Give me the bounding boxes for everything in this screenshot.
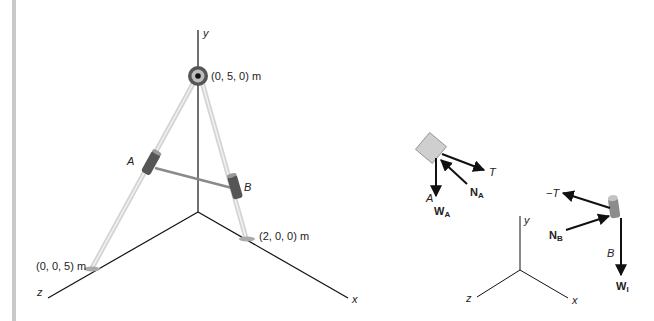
y-axis-label: y bbox=[202, 27, 210, 39]
small-y-label: y bbox=[523, 214, 531, 226]
fbd-a-body-label: A bbox=[425, 192, 433, 204]
normal-b-label: NB bbox=[549, 229, 563, 243]
collar-b-label: B bbox=[244, 181, 251, 193]
z-axis-line bbox=[48, 212, 198, 298]
small-x-axis bbox=[520, 270, 568, 298]
small-axes: y z x bbox=[465, 214, 578, 306]
neg-tension-arrow bbox=[563, 193, 610, 208]
block-a bbox=[416, 133, 447, 164]
small-x-label: x bbox=[571, 294, 578, 306]
fbd-collar-a: A T NA WA bbox=[416, 133, 497, 219]
statics-figure: y (0, 5, 0) m A B (2, 0, 0) m (0, 0, 5) … bbox=[0, 0, 654, 321]
point-x-foot-label: (2, 0, 0) m bbox=[259, 230, 309, 242]
z-axis-label: z bbox=[36, 286, 43, 298]
fbd-collar-b: −T NB B Wl bbox=[546, 187, 629, 294]
diagram-canvas: y (0, 5, 0) m A B (2, 0, 0) m (0, 0, 5) … bbox=[0, 0, 654, 321]
tension-label: T bbox=[489, 166, 497, 178]
normal-b-arrow bbox=[566, 216, 609, 230]
weight-a-label: WA bbox=[434, 205, 450, 219]
small-z-axis bbox=[477, 270, 520, 297]
x-axis-label: x bbox=[351, 293, 358, 305]
foot-pad-x bbox=[239, 237, 255, 242]
collar-a bbox=[141, 148, 162, 176]
small-z-label: z bbox=[465, 292, 472, 304]
normal-a-arrow bbox=[441, 160, 467, 184]
x-axis-line bbox=[198, 212, 348, 298]
collar-b-small bbox=[607, 194, 620, 218]
top-joint bbox=[188, 66, 208, 86]
rods bbox=[92, 82, 246, 268]
normal-a-label: NA bbox=[470, 186, 484, 200]
page-margin-bar bbox=[12, 0, 16, 321]
fbd-b-body-label: B bbox=[607, 247, 614, 259]
foot-pad-z bbox=[84, 267, 100, 272]
point-z-foot-label: (0, 0, 5) m bbox=[36, 260, 86, 272]
cable-ab bbox=[155, 168, 232, 188]
point-top-label: (0, 5, 0) m bbox=[211, 70, 261, 82]
neg-tension-label: −T bbox=[546, 187, 560, 199]
collar-a-label: A bbox=[126, 155, 134, 167]
weight-b-label: Wl bbox=[616, 280, 629, 294]
